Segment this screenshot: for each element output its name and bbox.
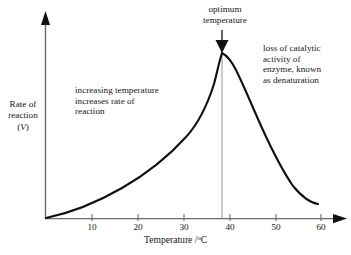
x-tick-label-10: 10 [82, 222, 102, 232]
x-axis-arrowhead [333, 214, 347, 223]
annotation-optimum-temperature: optimum temperature [190, 4, 260, 25]
x-tick-label-20: 20 [128, 222, 148, 232]
x-axis-label: Temperature /oC [144, 234, 207, 245]
annotation-increasing-temperature: increasing temperature increases rate of… [75, 85, 185, 117]
y-axis-arrowhead [41, 11, 50, 25]
x-axis-label-text: Temperature / [144, 234, 197, 245]
y-axis-label-line-1: Rate of [1, 99, 45, 110]
x-tick-label-30: 30 [174, 222, 194, 232]
x-tick-label-40: 40 [220, 222, 240, 232]
annotation-denaturation: loss of catalytic activity of enzyme, kn… [263, 43, 351, 85]
y-axis-label-line-3: (V) [1, 122, 45, 133]
x-tick-label-60: 60 [311, 222, 331, 232]
enzyme-rate-temperature-chart: Rate of reaction (V) Temperature /oC 10 … [0, 0, 351, 255]
x-axis-ticks [92, 214, 321, 221]
y-axis-label-paren-close: ) [26, 122, 29, 132]
y-axis-label-line-2: reaction [1, 110, 45, 121]
x-tick-label-50: 50 [266, 222, 286, 232]
x-axis-label-unit: C [201, 234, 207, 245]
y-axis-label: Rate of reaction (V) [1, 99, 45, 133]
chart-canvas [0, 0, 351, 255]
